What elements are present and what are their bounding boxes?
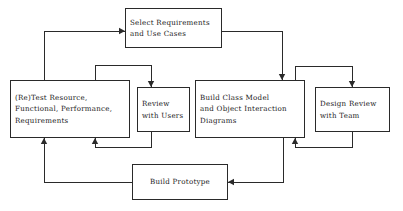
node-label-line: Diagrams bbox=[200, 115, 302, 127]
node-label-line: Requirements bbox=[15, 115, 127, 127]
node-review-with-users[interactable]: Reviewwith Users bbox=[137, 87, 190, 132]
node-label-line: (Re)Test Resource, bbox=[15, 92, 127, 104]
node-label-line: with Team bbox=[320, 110, 387, 122]
node-build-class-model[interactable]: Build Class Modeland Object InteractionD… bbox=[195, 80, 305, 138]
node-label-line: with Users bbox=[142, 110, 187, 122]
arrowhead-build-class-to-prototype bbox=[228, 179, 234, 185]
node-label-line: Build Prototype bbox=[150, 176, 210, 188]
node-build-prototype[interactable]: Build Prototype bbox=[132, 164, 228, 200]
process-flow-diagram: Select Requirementsand Use Cases(Re)Test… bbox=[0, 0, 403, 211]
node-select-requirements[interactable]: Select Requirementsand Use Cases bbox=[125, 8, 222, 48]
node-label-line: Review bbox=[142, 98, 187, 110]
connector-retest-to-select bbox=[44, 31, 125, 80]
arrowhead-prototype-to-retest bbox=[41, 138, 47, 144]
node-label-line: Build Class Model bbox=[200, 92, 302, 104]
connector-build-class-to-prototype bbox=[228, 138, 283, 182]
connector-select-to-build-class bbox=[222, 31, 282, 80]
node-label-line: and Use Cases bbox=[130, 28, 219, 40]
arrowhead-design-review-to-build-class bbox=[292, 138, 298, 144]
node-label-line: Functional, Performance, bbox=[15, 103, 127, 115]
arrowhead-review-to-retest bbox=[92, 138, 98, 144]
node-retest-resource[interactable]: (Re)Test Resource,Functional, Performanc… bbox=[10, 80, 130, 138]
node-label-line: Design Review bbox=[320, 98, 387, 110]
connector-prototype-to-retest bbox=[44, 138, 132, 182]
node-design-review[interactable]: Design Reviewwith Team bbox=[315, 87, 390, 132]
node-label-line: Select Requirements bbox=[130, 17, 219, 29]
node-label-line: and Object Interaction bbox=[200, 103, 302, 115]
